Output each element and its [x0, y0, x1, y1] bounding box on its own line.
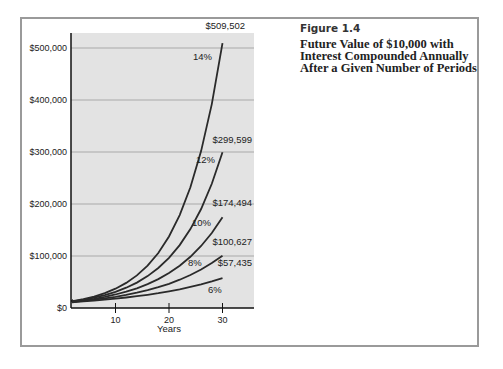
y-tick-label: $0 — [57, 303, 67, 313]
end-value-label: $509,502 — [205, 20, 245, 31]
x-tick-label: 30 — [217, 315, 227, 325]
figure-caption: Figure 1.4 Future Value of $10,000 with … — [300, 22, 480, 74]
x-tick-label: 10 — [110, 315, 120, 325]
x-axis-label: Years — [157, 323, 181, 334]
rate-label: 14% — [193, 51, 213, 62]
rate-label: 8% — [188, 257, 202, 268]
y-tick-label: $100,000 — [29, 251, 67, 261]
end-value-label: $174,494 — [212, 197, 252, 208]
y-tick-label: $300,000 — [29, 147, 67, 157]
rate-label: 12% — [196, 154, 216, 165]
y-tick-label: $400,000 — [29, 95, 67, 105]
y-tick-label: $500,000 — [29, 43, 67, 53]
figure-number: Figure 1.4 — [300, 22, 480, 34]
rate-label: 10% — [192, 217, 212, 228]
end-value-label: $299,599 — [212, 134, 252, 145]
rate-label: 6% — [208, 284, 222, 295]
y-axis-ticks: $0$100,000$200,000$300,000$400,000$500,0… — [29, 43, 67, 313]
y-tick-label: $200,000 — [29, 199, 67, 209]
figure-title: Future Value of $10,000 with Interest Co… — [300, 38, 480, 74]
end-value-label: $57,435 — [218, 257, 252, 268]
end-value-label: $100,627 — [212, 236, 252, 247]
